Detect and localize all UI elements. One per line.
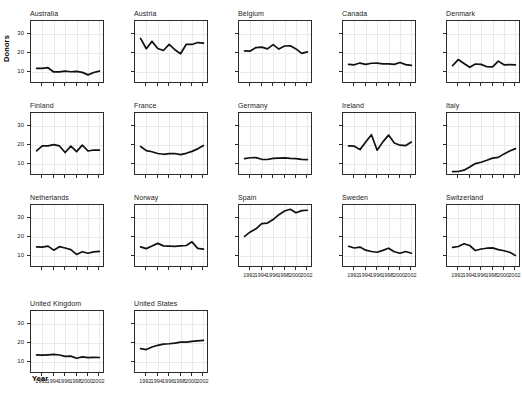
y-axis-tick (131, 33, 134, 34)
panel-title: Spain (238, 194, 256, 201)
panel-finland: Finland102030 (22, 102, 116, 195)
x-axis-tick (180, 267, 181, 270)
x-axis-tick (514, 83, 515, 86)
panel-norway: Norway (126, 194, 220, 287)
x-axis-tick (503, 83, 504, 86)
panel-spain: Spain199219941996199820002002 (230, 194, 324, 287)
x-axis-tick (306, 83, 307, 86)
panel-australia: Australia102030 (22, 10, 116, 103)
x-axis-tick (76, 373, 77, 376)
x-axis-tick (87, 267, 88, 270)
x-axis-tick (353, 267, 354, 270)
x-axis-tick (514, 175, 515, 178)
y-axis-tick (443, 217, 446, 218)
x-axis-tick (492, 175, 493, 178)
x-axis-tick (306, 175, 307, 178)
x-axis-tick (284, 83, 285, 86)
y-axis-tick (27, 125, 30, 126)
x-axis-tick (469, 83, 470, 86)
panel-ireland: Ireland (334, 102, 428, 195)
panel-united-kingdom: United Kingdom10203019921994199619982000… (22, 300, 116, 393)
panel-title: United States (134, 300, 177, 307)
x-axis-tick (145, 373, 146, 376)
x-axis-tick (168, 83, 169, 86)
y-axis-tick (27, 323, 30, 324)
y-axis-tick (235, 125, 238, 126)
series-line (135, 113, 208, 175)
series-line (447, 21, 520, 83)
x-axis-tick (168, 267, 169, 270)
x-axis-tick (399, 267, 400, 270)
x-axis-tick (284, 267, 285, 270)
plot-area (30, 310, 104, 373)
x-axis-tick (76, 267, 77, 270)
panel-title: Austria (134, 10, 157, 17)
series-line (239, 113, 312, 175)
y-axis-tick (235, 255, 238, 256)
x-axis-tick (492, 83, 493, 86)
x-axis-tick (98, 373, 99, 376)
series-line (343, 21, 416, 83)
x-axis-tick (365, 83, 366, 86)
y-axis-tick (339, 255, 342, 256)
x-axis-tick (514, 267, 515, 270)
panel-title: Netherlands (30, 194, 69, 201)
y-axis-tick-label: 10 (8, 68, 24, 74)
x-axis-tick (295, 83, 296, 86)
x-axis-tick (64, 267, 65, 270)
y-axis-tick (443, 163, 446, 164)
panel-title: Switzerland (446, 194, 483, 201)
x-axis-tick (98, 267, 99, 270)
x-axis-tick (388, 175, 389, 178)
x-axis-tick (388, 267, 389, 270)
panel-title: Finland (30, 102, 54, 109)
y-axis-tick (339, 217, 342, 218)
panel-title: Denmark (446, 10, 475, 17)
panel-netherlands: Netherlands102030 (22, 194, 116, 287)
x-axis-tick (41, 267, 42, 270)
x-axis-tick (480, 83, 481, 86)
panel-title: Sweden (342, 194, 368, 201)
y-axis-tick (339, 52, 342, 53)
x-axis-tick (503, 175, 504, 178)
x-axis-tick (410, 175, 411, 178)
y-axis-tick (131, 255, 134, 256)
plot-area (446, 20, 520, 83)
plot-area (238, 204, 312, 267)
x-axis-tick (41, 373, 42, 376)
x-axis-tick (202, 373, 203, 376)
y-axis-tick (339, 163, 342, 164)
panel-title: Germany (238, 102, 268, 109)
y-axis-tick (443, 71, 446, 72)
x-axis-tick (399, 175, 400, 178)
y-axis-tick (131, 71, 134, 72)
x-axis-tick (41, 83, 42, 86)
x-axis-tick (492, 267, 493, 270)
y-axis-tick (443, 125, 446, 126)
y-axis-tick (27, 236, 30, 237)
x-axis-tick (306, 267, 307, 270)
y-axis-tick-label: 10 (8, 358, 24, 364)
panel-france: France (126, 102, 220, 195)
series-line (31, 21, 104, 83)
x-axis-tick (64, 83, 65, 86)
x-axis-tick (469, 175, 470, 178)
x-axis-tick-label: 2002 (297, 272, 315, 278)
y-axis-tick (235, 33, 238, 34)
plot-area (30, 204, 104, 267)
x-axis-tick (53, 267, 54, 270)
x-axis-tick (410, 83, 411, 86)
x-axis-tick (376, 175, 377, 178)
plot-area (134, 310, 208, 373)
panel-title: Italy (446, 102, 459, 109)
y-axis-tick-label: 20 (8, 49, 24, 55)
plot-area (134, 204, 208, 267)
y-axis-tick (27, 33, 30, 34)
y-axis-tick-label: 20 (8, 339, 24, 345)
panel-title: Australia (30, 10, 58, 17)
y-axis-tick (339, 71, 342, 72)
panel-denmark: Denmark (438, 10, 522, 103)
x-axis-tick (249, 267, 250, 270)
x-axis-tick (284, 175, 285, 178)
x-axis-tick (410, 267, 411, 270)
